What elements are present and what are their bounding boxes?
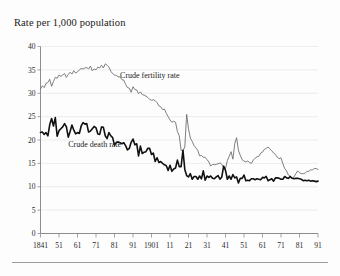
x-axis-tick-label: 81 bbox=[296, 241, 304, 250]
y-axis-ticks: 0510152025303540 bbox=[28, 42, 41, 238]
y-axis-tick-label: 30 bbox=[28, 89, 36, 98]
x-axis-tick-label: 61 bbox=[74, 241, 82, 250]
x-axis-tick-label: 81 bbox=[111, 241, 119, 250]
y-axis-tick-label: 40 bbox=[28, 42, 36, 51]
chart-page: Rate per 1,000 population 05101520253035… bbox=[0, 0, 340, 276]
x-axis-tick-label: 41 bbox=[222, 241, 230, 250]
series-line-crude-fertility-rate bbox=[41, 64, 319, 179]
x-axis-tick-label: 91 bbox=[314, 241, 322, 250]
series-annotations: Crude fertility rateCrude death rate bbox=[68, 71, 180, 149]
x-axis-tick-label: 1841 bbox=[33, 241, 48, 250]
x-axis-tick-label: 71 bbox=[277, 241, 285, 250]
x-axis-tick-label: 91 bbox=[129, 241, 137, 250]
y-axis-tick-label: 0 bbox=[32, 229, 36, 238]
x-axis-tick-label: 11 bbox=[166, 241, 174, 250]
x-axis-tick-label: 31 bbox=[203, 241, 211, 250]
x-axis-tick-label: 71 bbox=[92, 241, 100, 250]
y-axis-tick-label: 5 bbox=[32, 206, 36, 215]
x-axis-ticks: 184151617181911901112131415161718191 bbox=[33, 234, 322, 250]
y-axis-tick-label: 25 bbox=[28, 112, 36, 121]
x-axis-tick-label: 51 bbox=[55, 241, 63, 250]
line-chart: 0510152025303540 18415161718191190111213… bbox=[0, 0, 340, 276]
y-axis-tick-label: 10 bbox=[28, 182, 36, 191]
bottom-divider bbox=[12, 262, 328, 263]
y-axis-tick-label: 35 bbox=[28, 66, 36, 75]
x-axis-tick-label: 61 bbox=[259, 241, 267, 250]
y-axis-tick-label: 20 bbox=[28, 136, 36, 145]
x-axis-tick-label: 21 bbox=[185, 241, 193, 250]
fertility-label: Crude fertility rate bbox=[120, 71, 180, 80]
x-axis-tick-label: 51 bbox=[240, 241, 248, 250]
series-line-crude-death-rate bbox=[41, 118, 319, 183]
death-label: Crude death rate bbox=[68, 140, 121, 149]
y-axis-tick-label: 15 bbox=[28, 159, 36, 168]
x-axis-tick-label: 1901 bbox=[144, 241, 159, 250]
